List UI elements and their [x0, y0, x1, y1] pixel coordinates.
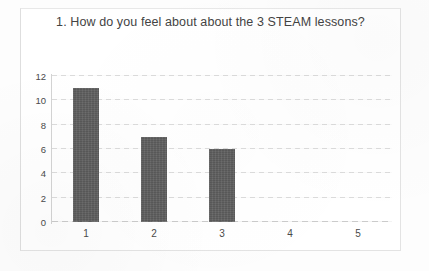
x-axis-tick-label: 2 [134, 228, 174, 239]
y-axis-tick-label: 6 [22, 144, 46, 155]
x-axis-tick-label: 1 [66, 228, 106, 239]
y-axis-tick-label: 2 [22, 192, 46, 203]
x-axis-tick-label: 4 [270, 228, 310, 239]
y-axis-tick-label: 0 [22, 217, 46, 228]
bar-slot [120, 76, 188, 222]
chart-screenshot: 1. How do you feel about about the 3 STE… [0, 0, 429, 271]
chart-title: 1. How do you feel about about the 3 STE… [38, 14, 383, 31]
bar-slot [324, 76, 392, 222]
bar [209, 149, 235, 222]
plot-area [52, 76, 392, 222]
y-axis-tick-label: 10 [22, 95, 46, 106]
axis-baseline [52, 221, 392, 222]
bar-slot [256, 76, 324, 222]
y-axis-tick-label: 4 [22, 168, 46, 179]
bar [141, 137, 167, 222]
y-axis-tick-labels: 024681012 [22, 76, 46, 222]
y-axis-tick-label: 12 [22, 71, 46, 82]
x-axis-tick-label: 3 [202, 228, 242, 239]
bar-slot [52, 76, 120, 222]
x-axis-tick-label: 5 [338, 228, 378, 239]
y-axis-tick-label: 8 [22, 119, 46, 130]
x-axis-tick-labels: 12345 [52, 228, 392, 244]
bar [73, 88, 99, 222]
bar-slot [188, 76, 256, 222]
